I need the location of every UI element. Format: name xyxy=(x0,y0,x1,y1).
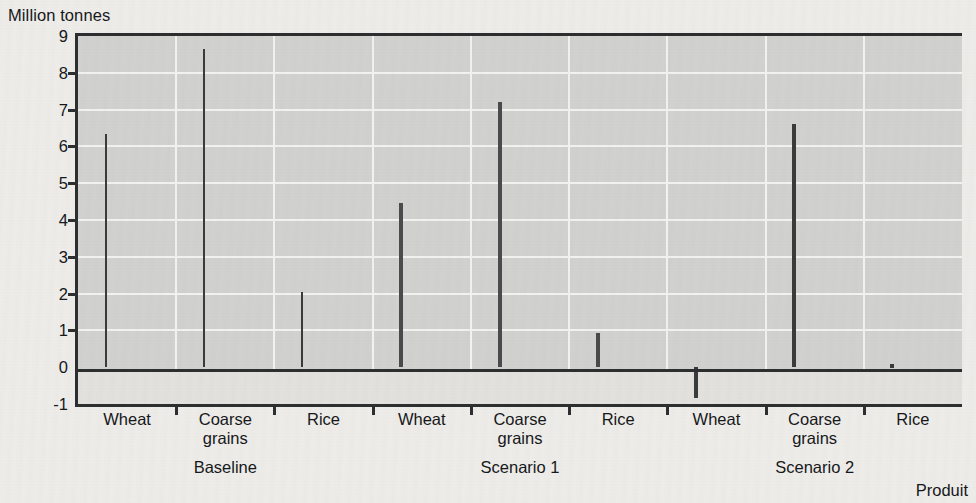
y-axis-tick xyxy=(68,72,78,75)
y-axis-tick-label: 2 xyxy=(8,284,68,303)
bar xyxy=(792,124,796,367)
gridline-vertical xyxy=(666,36,668,370)
y-axis-tick xyxy=(68,329,78,332)
y-axis-tick-label: 8 xyxy=(8,63,68,82)
y-axis-tick-label: 4 xyxy=(8,211,68,230)
category-label-line2: grains xyxy=(165,429,285,448)
plot-frame-top xyxy=(76,33,962,36)
gridline-horizontal xyxy=(78,219,962,221)
y-axis-tick xyxy=(68,256,78,259)
gridline-vertical xyxy=(175,36,177,370)
y-axis-tick-label: 5 xyxy=(8,174,68,193)
gridline-vertical xyxy=(372,36,374,370)
y-axis-tick-label: 1 xyxy=(8,321,68,340)
y-axis-tick-label: 9 xyxy=(8,27,68,46)
gridline-horizontal xyxy=(78,256,962,258)
group-label: Scenario 2 xyxy=(725,458,905,477)
bar xyxy=(890,364,894,368)
y-axis-tick-label: -1 xyxy=(8,395,68,414)
bar xyxy=(301,292,303,367)
y-axis-tick-label: 3 xyxy=(8,247,68,266)
gridline-vertical xyxy=(568,36,570,370)
y-axis-tick-label: 6 xyxy=(8,137,68,156)
category-label-line2: grains xyxy=(460,429,580,448)
y-axis-tick xyxy=(68,109,78,112)
plot-area xyxy=(78,36,962,404)
group-label: Baseline xyxy=(135,458,315,477)
y-axis-tick xyxy=(68,219,78,222)
zero-baseline xyxy=(75,369,962,372)
gridline-vertical xyxy=(273,36,275,370)
category-label-line2: grains xyxy=(755,429,875,448)
gridline-horizontal xyxy=(78,329,962,331)
y-axis-title: Million tonnes xyxy=(8,6,110,25)
gridline-horizontal xyxy=(78,109,962,111)
y-axis-tick xyxy=(68,182,78,185)
gridline-vertical xyxy=(863,36,865,370)
gridline-horizontal xyxy=(78,293,962,295)
x-axis-title: Produit xyxy=(916,481,968,500)
category-label: Rice xyxy=(853,410,973,429)
y-axis-tick xyxy=(68,293,78,296)
bar xyxy=(596,333,600,367)
bar xyxy=(498,102,502,367)
gridline-horizontal xyxy=(78,145,962,147)
bar xyxy=(399,203,403,367)
y-axis-tick-label: 0 xyxy=(8,358,68,377)
plot-frame-bottom xyxy=(75,404,962,407)
gridline-vertical xyxy=(765,36,767,370)
group-label: Scenario 1 xyxy=(430,458,610,477)
chart-page: Million tonnes 9876543210-1 WheatCoarseg… xyxy=(0,0,976,503)
gridline-vertical xyxy=(470,36,472,370)
y-axis-tick xyxy=(68,145,78,148)
gridline-horizontal xyxy=(78,182,962,184)
group-labels: BaselineScenario 1Scenario 2 xyxy=(78,458,962,486)
bar xyxy=(203,49,205,367)
category-label-line1: Rice xyxy=(853,410,973,429)
negative-band xyxy=(78,370,962,404)
y-axis-tick-label: 7 xyxy=(8,100,68,119)
gridline-horizontal xyxy=(78,72,962,74)
y-axis-labels: 9876543210-1 xyxy=(0,36,68,404)
bar xyxy=(105,134,107,368)
